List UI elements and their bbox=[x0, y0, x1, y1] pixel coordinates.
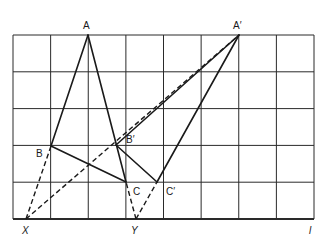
edge-a-b bbox=[51, 35, 88, 146]
label-c-prime: C′ bbox=[166, 186, 175, 197]
edge-b2-c2 bbox=[116, 145, 157, 182]
geometry-diagram: A A′ B B′ C C′ X Y l bbox=[0, 0, 322, 243]
point-labels: A A′ B B′ C C′ X Y l bbox=[21, 20, 312, 236]
label-x: X bbox=[21, 225, 29, 236]
label-a: A bbox=[83, 20, 90, 31]
label-l: l bbox=[309, 225, 312, 236]
label-b: B bbox=[36, 148, 43, 159]
label-b-prime: B′ bbox=[126, 134, 135, 145]
label-y: Y bbox=[131, 225, 139, 236]
label-c: C bbox=[133, 186, 140, 197]
label-a-prime: A′ bbox=[233, 20, 242, 31]
